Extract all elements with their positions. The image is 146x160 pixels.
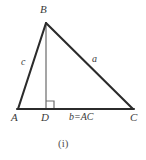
figure-caption: (i) [58,138,68,149]
vertex-label-c-vertex: C [130,112,137,123]
side-bc-segment [46,23,133,109]
triangle-diagram-svg [0,0,146,160]
vertex-label-d: D [41,112,49,123]
side-label-c: c [21,57,25,67]
geometry-figure: B A D C c a b=AC (i) [0,0,146,160]
side-label-b-equals-ac: b=AC [69,112,94,122]
vertex-label-b: B [40,4,47,15]
vertex-label-a: A [11,112,18,123]
right-angle-marker [46,101,54,109]
side-label-a: a [92,54,97,64]
